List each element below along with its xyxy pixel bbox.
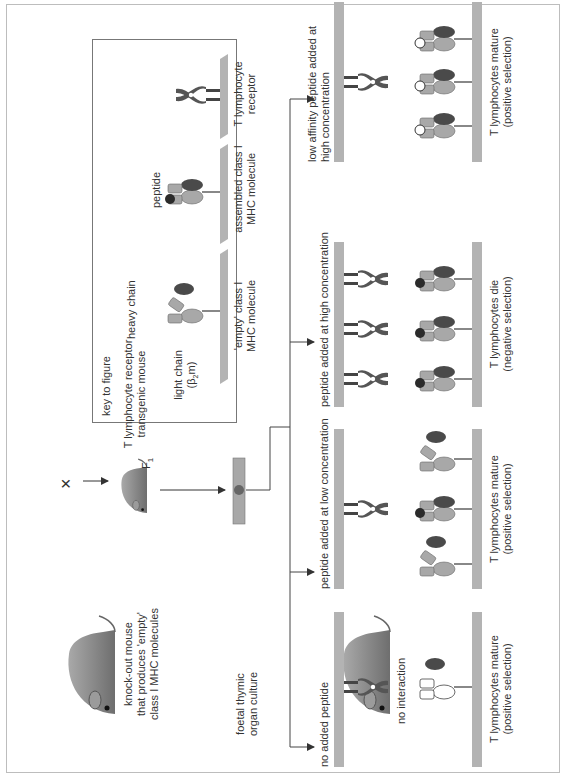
transgenic-mouse-icon: [343, 616, 390, 714]
f1-label: F1: [140, 458, 157, 469]
condition-3-outcome: T lymphocytes die (negative selection): [488, 264, 514, 384]
key-empty-mhc-label: 'empty' class I MHC molecule: [232, 261, 258, 371]
key-light-chain-label: light chain (β2m): [172, 345, 202, 405]
culture-line1: foetal thymic: [234, 659, 247, 749]
knockout-label-line1: knock-out mouse: [122, 604, 135, 724]
rotated-figure: knock-out mouse that produces 'empty' cl…: [0, 0, 567, 779]
figure-graphics: [0, 0, 567, 779]
transgenic-label-line1: T lymphocyte receptor: [122, 329, 135, 459]
condition-4-outcome: T lymphocytes mature (positive selection…: [488, 22, 514, 142]
key-peptide-label: peptide: [150, 172, 163, 208]
apc-membrane-1: [472, 612, 482, 767]
tcr-membrane-3: [334, 242, 344, 407]
culture-label: foetal thymic organ culture: [234, 659, 260, 749]
transgenic-mouse-label: T lymphocyte receptor transgenic mouse: [122, 329, 148, 459]
transgenic-label-line2: transgenic mouse: [135, 329, 148, 459]
key-tcr-label: T lymphocyte receptor: [232, 49, 258, 139]
condition-4-title: low affinity peptide added at high conce…: [306, 26, 332, 162]
knockout-mouse-icon: [68, 616, 115, 714]
panel-low-conc-molecules: [344, 431, 472, 576]
condition-2-title: peptide added at low concentration: [318, 418, 331, 589]
knockout-label-line2: that produces 'empty': [135, 604, 148, 724]
apc-membrane-4: [472, 2, 482, 162]
apc-membrane-3: [472, 242, 482, 407]
condition-2-outcome: T lymphocytes mature (positive selection…: [488, 449, 514, 569]
key-title: key to figure: [100, 356, 113, 416]
condition-1-note: no interaction: [395, 658, 408, 724]
tcr-membrane-2: [334, 429, 344, 589]
tcr-membrane-1: [334, 612, 344, 767]
thymic-culture-icon: [233, 458, 245, 524]
knockout-mouse-label: knock-out mouse that produces 'empty' cl…: [122, 604, 161, 724]
panel-low-affinity-molecules: [344, 26, 472, 138]
knockout-label-line3: class I MHC molecules: [148, 604, 161, 724]
culture-line2: organ culture: [247, 659, 260, 749]
key-box: [92, 39, 237, 423]
condition-1-outcome: T lymphocytes mature (positive selection…: [488, 629, 514, 749]
condition-1-title: no added peptide: [318, 682, 331, 767]
condition-3-title: peptide added at high concentration: [318, 232, 331, 407]
key-heavy-chain-label: heavy chain: [125, 280, 138, 339]
cross-symbol: ×: [60, 478, 73, 489]
apc-membrane-2: [472, 429, 482, 589]
tcr-membrane-4: [334, 2, 344, 162]
key-assembled-mhc-label: assembled class I MHC molecule: [232, 134, 258, 244]
panel-high-conc-molecules: [344, 266, 472, 391]
